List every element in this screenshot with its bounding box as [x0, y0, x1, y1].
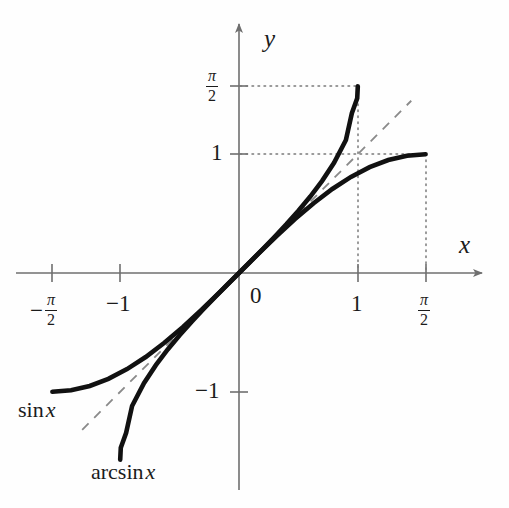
fraction-pi-over-2: π2	[45, 292, 57, 329]
curve-label-arcsin-name: arcsin	[91, 459, 144, 484]
origin-label: 0	[250, 284, 262, 307]
x-axis-label: x	[459, 232, 470, 257]
tick-label-y-pi-2: π2	[206, 68, 218, 105]
curve-label-sin: sinx	[18, 399, 55, 421]
fraction-denominator: 2	[206, 87, 218, 105]
tick-label-x-neg-pi-2: −π2	[30, 292, 57, 329]
curve-label-arcsin-arg: x	[144, 459, 156, 484]
figure-plot-sin-arcsin: y x 0 −π2 −1 1 π2 π2 1 −1 sinx arcsinx	[0, 0, 509, 508]
fraction-numerator: π	[418, 292, 430, 311]
y-axis-label: y	[264, 26, 275, 51]
fraction-pi-over-2: π2	[206, 68, 218, 105]
plot-canvas	[0, 0, 509, 508]
fraction-numerator: π	[206, 68, 218, 87]
tick-label-x-pi-2: π2	[418, 292, 430, 329]
tick-label-x-1: 1	[351, 292, 363, 315]
axis-group	[16, 24, 482, 490]
fraction-pi-over-2: π2	[418, 292, 430, 329]
curve-label-arcsin: arcsinx	[91, 461, 155, 483]
tick-label-y-neg-1: −1	[195, 379, 219, 402]
curve-label-sin-name: sin	[18, 397, 44, 422]
minus-sign: −	[30, 299, 45, 322]
tick-label-x-neg-1: −1	[106, 292, 130, 315]
fraction-denominator: 2	[418, 311, 430, 329]
curve-label-sin-arg: x	[44, 397, 56, 422]
fraction-numerator: π	[45, 292, 57, 311]
fraction-denominator: 2	[45, 311, 57, 329]
tick-label-y-1: 1	[211, 141, 223, 164]
